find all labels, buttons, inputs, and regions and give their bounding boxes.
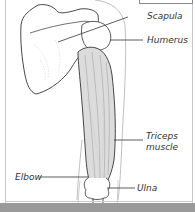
label-ulna: Ulna bbox=[137, 183, 157, 193]
label-scapula: Scapula bbox=[147, 11, 183, 21]
label-triceps-line1: Triceps bbox=[146, 131, 178, 141]
label-elbow: Elbow bbox=[15, 172, 42, 182]
frame-bottom-edge bbox=[5, 201, 193, 202]
label-triceps-line2: muscle bbox=[146, 142, 178, 152]
label-humerus: Humerus bbox=[147, 35, 188, 45]
bottom-bar bbox=[0, 203, 195, 212]
